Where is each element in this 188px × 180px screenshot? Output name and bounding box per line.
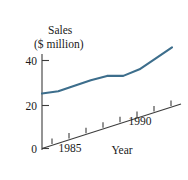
y-tick-label-40: 40: [26, 55, 38, 67]
chart-canvas: 40 20 0 Sales ($ million) 1985 1990 Year: [0, 0, 188, 180]
y-tick-label-20: 20: [26, 100, 38, 112]
x-tick-label-1985: 1985: [59, 142, 82, 154]
x-axis-title-year: Year: [111, 144, 132, 156]
sales-data-line: [42, 47, 172, 93]
sales-line-chart: 40 20 0 Sales ($ million) 1985 1990 Year: [0, 0, 188, 180]
y-axis-title-units: ($ million): [34, 38, 84, 51]
y-axis-title-sales: Sales: [48, 24, 73, 36]
y-tick-label-0: 0: [31, 143, 37, 155]
x-tick-label-1990: 1990: [129, 115, 152, 127]
